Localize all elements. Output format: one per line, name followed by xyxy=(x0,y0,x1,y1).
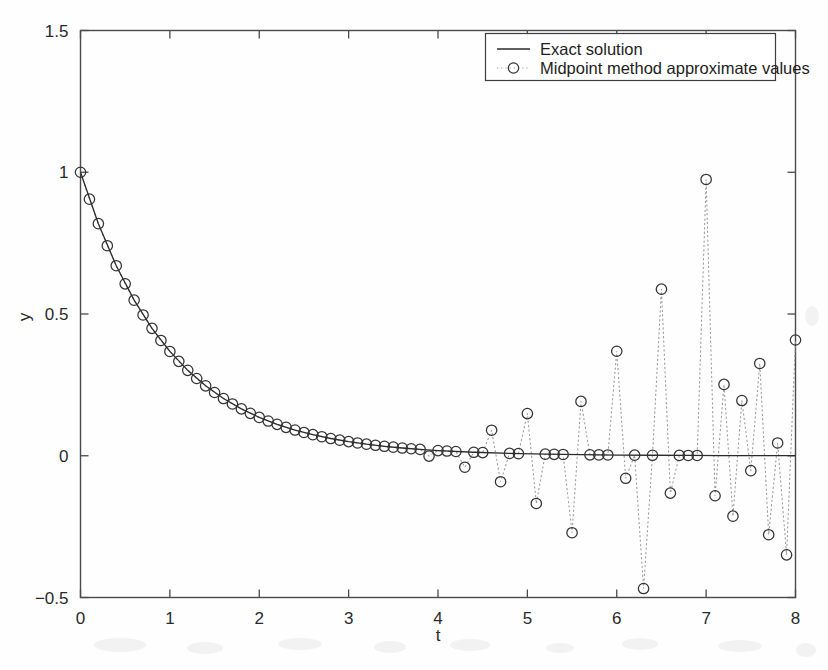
x-tick-label-6: 6 xyxy=(612,609,621,628)
figure-background xyxy=(0,0,828,670)
legend-label-approx: Midpoint method approximate values xyxy=(540,59,810,77)
x-tick-label-4: 4 xyxy=(433,609,442,628)
figure-container: 012345678−0.500.511.5 t y Exact solution… xyxy=(0,0,828,670)
plot-svg: 012345678−0.500.511.5 t y Exact solution… xyxy=(0,0,828,670)
x-tick-label-1: 1 xyxy=(165,609,174,628)
x-tick-label-0: 0 xyxy=(76,609,85,628)
x-tick-label-2: 2 xyxy=(255,609,264,628)
legend: Exact solution Midpoint method approxima… xyxy=(486,34,810,81)
y-tick-label-0-5: 0.5 xyxy=(45,305,69,324)
x-tick-label-3: 3 xyxy=(344,609,353,628)
y-tick-label-1-5: 1.5 xyxy=(45,22,69,41)
x-tick-label-7: 7 xyxy=(701,609,710,628)
y-tick-label--0-5: −0.5 xyxy=(35,589,69,608)
x-axis-title: t xyxy=(436,626,441,645)
legend-label-exact: Exact solution xyxy=(540,40,643,58)
y-axis-title: y xyxy=(15,312,34,321)
x-tick-label-5: 5 xyxy=(523,609,532,628)
y-tick-label-0: 0 xyxy=(59,447,68,466)
y-tick-label-1: 1 xyxy=(59,163,68,182)
x-tick-label-8: 8 xyxy=(791,609,800,628)
